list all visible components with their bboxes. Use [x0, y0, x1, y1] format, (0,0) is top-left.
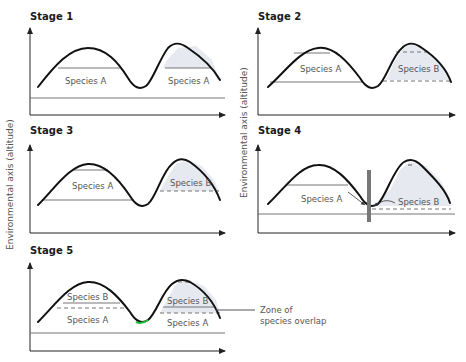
overlap-annotation-line2: species overlap: [260, 316, 326, 326]
stage-2-label-right: Species B: [398, 64, 439, 74]
stage-3-label-right: Species B: [170, 178, 211, 188]
stage-2-panel: Stage 2 Species A Species B: [258, 11, 455, 115]
stage-2-label-left: Species A: [300, 64, 341, 74]
stage-4-geographic-barrier: [367, 170, 371, 222]
stage-2-shaded-region: [386, 44, 451, 80]
stage-5-title: Stage 5: [30, 245, 73, 256]
stage-5-label-right-top: Species B: [167, 296, 208, 306]
stage-3-label-left: Species A: [72, 181, 113, 191]
y-axis-label-left: Environmental axis (altitude): [5, 119, 15, 250]
stage-4-panel: Stage 4 Species A Species B: [258, 125, 455, 233]
stage-4-title: Stage 4: [258, 125, 301, 136]
speciation-diagram: Stage 1 Species A Species A Stage 2 Spec…: [0, 0, 466, 362]
stage-5-label-right-bottom: Species A: [167, 318, 208, 328]
stage-3-panel: Stage 3 Species A Species B: [30, 125, 225, 233]
stage-1-title: Stage 1: [30, 11, 73, 22]
y-axis-label-right: Environmental axis (altitude): [239, 67, 249, 198]
stage-5-panel: Stage 5 Species B Species A Species B Sp…: [30, 245, 326, 351]
stage-2-title: Stage 2: [258, 11, 301, 22]
stage-5-label-left-bottom: Species A: [67, 315, 108, 325]
stage-5-label-left-top: Species B: [67, 292, 108, 302]
stage-1-label-left: Species A: [65, 76, 106, 86]
stage-1-panel: Stage 1 Species A Species A: [30, 11, 225, 115]
stage-1-label-right: Species A: [168, 76, 209, 86]
stage-4-label-left: Species A: [301, 194, 342, 204]
stage-4-label-right: Species B: [398, 197, 439, 207]
stage-3-title: Stage 3: [30, 125, 73, 136]
overlap-annotation-line1: Zone of: [260, 305, 294, 315]
